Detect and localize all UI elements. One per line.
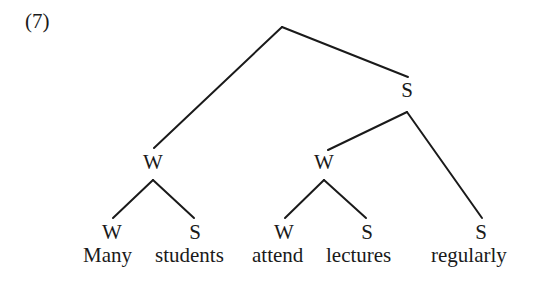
node-w-many: W: [102, 222, 122, 243]
word-regularly: regularly: [431, 245, 507, 266]
word-attend: attend: [252, 245, 303, 266]
edge-w-left-w-many: [113, 180, 153, 218]
node-s-students: S: [189, 222, 201, 243]
node-s-lectures: S: [361, 222, 373, 243]
edge-s-top-w-mid: [328, 112, 407, 150]
edge-s-top-s-regularly: [407, 112, 482, 218]
word-lectures: lectures: [326, 245, 391, 266]
edge-w-mid-s-lectures: [324, 180, 366, 218]
edge-w-mid-w-attend: [285, 180, 324, 218]
node-s-top: S: [401, 80, 413, 101]
node-w-mid: W: [314, 152, 334, 173]
metrical-tree-diagram: (7) S W W W S W S S Many students attend…: [0, 0, 544, 297]
edge-w-left-s-students: [153, 180, 194, 218]
edge-root-w-left: [154, 27, 282, 148]
node-w-attend: W: [274, 222, 294, 243]
node-s-regularly: S: [475, 222, 487, 243]
edge-root-s-top: [282, 27, 408, 77]
node-w-left: W: [143, 152, 163, 173]
word-many: Many: [83, 245, 132, 266]
word-students: students: [155, 245, 224, 266]
